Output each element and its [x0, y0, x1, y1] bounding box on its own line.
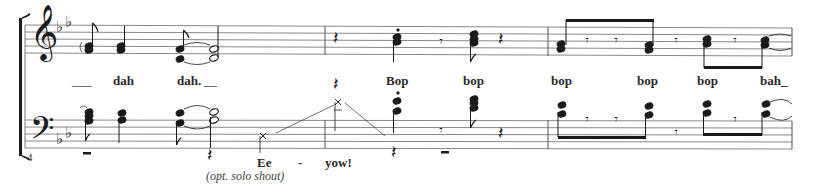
eighth-rest-icon: 𝄾 — [585, 112, 589, 126]
eighth-rest-icon: 𝄾 — [733, 112, 737, 126]
quarter-rest-icon: 𝄽 — [498, 124, 504, 142]
performance-annotation: (opt. solo shout) — [206, 170, 284, 182]
eighth-rest-icon: 𝄾 — [585, 33, 589, 47]
lyric-syllable: Ee — [257, 156, 271, 169]
lyric-syllable: Bop — [386, 74, 408, 87]
eighth-rest-icon: 𝄾 — [674, 125, 678, 139]
eighth-rest-icon: 𝄾 — [614, 33, 618, 47]
lyric-syllable: bop — [463, 74, 484, 87]
eighth-rest-icon: 𝄾 — [674, 33, 678, 47]
lyric-syllable: - — [298, 156, 302, 169]
lyric-syllable: dah — [113, 74, 134, 87]
quarter-rest-icon: 𝄽 — [391, 143, 397, 161]
lyric-syllable: yow! — [325, 156, 352, 169]
lyric-syllable: bah_ — [760, 74, 787, 87]
lyric-syllable: ___ — [72, 74, 92, 87]
eighth-rest-icon: 𝄾 — [439, 34, 443, 48]
flat-icon: ♭ — [65, 15, 72, 30]
lyric-syllable: dah. — [177, 74, 201, 87]
flat-icon: ♭ — [56, 20, 63, 35]
flat-icon: ♭ — [65, 126, 72, 141]
quarter-rest-icon: 𝄽 — [333, 75, 339, 93]
bass-measure-5 — [334, 92, 479, 154]
measure-number: 4 — [27, 152, 33, 163]
sheet-music-score: 𝄞 𝄢 ♭ ♭ ♭ ♭ 𝄽 𝄾 𝄽 𝄾 𝄾 𝄾 𝄾 𝄽 𝄽 𝄽 𝄾 𝄽 𝄾 𝄾 … — [0, 0, 813, 194]
lyric-syllable: bop — [551, 74, 572, 87]
eighth-rest-icon: 𝄾 — [733, 33, 737, 47]
eighth-rest-icon: 𝄾 — [439, 123, 443, 137]
treble-clef-icon: 𝄞 — [30, 7, 58, 55]
lyric-syllable: bop — [697, 74, 718, 87]
lyric-syllable: __ — [204, 74, 217, 87]
flat-icon: ♭ — [56, 132, 63, 147]
quarter-rest-icon: 𝄽 — [498, 30, 504, 48]
staff-system — [0, 0, 813, 194]
system-bracket — [19, 14, 30, 160]
eighth-rest-icon: 𝄾 — [614, 112, 618, 126]
quarter-rest-icon: 𝄽 — [333, 29, 339, 47]
treble-measure-4 — [80, 23, 219, 65]
quarter-rest-icon: 𝄽 — [207, 146, 213, 164]
lyric-syllable: bop — [637, 74, 658, 87]
bass-clef-icon: 𝄢 — [30, 113, 54, 151]
